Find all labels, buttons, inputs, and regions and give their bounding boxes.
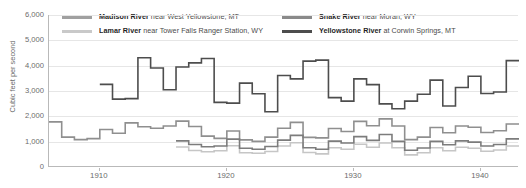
x-tick-label-1910: 1910: [90, 171, 107, 180]
y-tick-label-4000: 4,000: [25, 62, 44, 70]
chart-root: Madison River near West Yellowstone, MT …: [0, 0, 526, 188]
x-axis-labels: 1910192019301940: [0, 168, 526, 186]
y-tick-label-2000: 2,000: [25, 112, 44, 120]
series-lines: [49, 15, 519, 167]
x-tick-label-1930: 1930: [344, 171, 361, 180]
y-tick-label-5000: 5,000: [25, 36, 44, 44]
x-tick-label-1940: 1940: [471, 171, 488, 180]
y-tick-label-3000: 3,000: [25, 87, 44, 95]
plot-area: [48, 15, 518, 167]
y-tick-label-6000: 6,000: [25, 11, 44, 19]
y-tick-label-1000: 1,000: [25, 138, 44, 146]
x-tick-label-1920: 1920: [217, 171, 234, 180]
series-line-yellowstone-river: [100, 58, 519, 112]
series-line-madison-river: [49, 119, 519, 142]
y-axis-title: Cubic feet per second: [8, 17, 17, 137]
